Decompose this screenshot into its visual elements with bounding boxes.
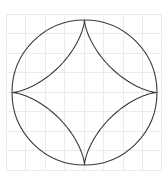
geometric-figure-canvas: [0, 0, 165, 179]
figure-svg: [0, 0, 165, 179]
